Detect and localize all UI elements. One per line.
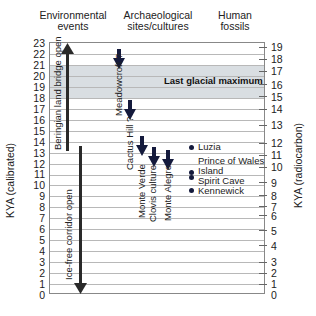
beringian-bar: [66, 52, 69, 151]
right-tick: 17: [271, 66, 283, 76]
header-archaeological: Archaeological sites/cultures: [108, 10, 208, 32]
right-tick: 9: [271, 178, 277, 188]
right-tick: 5: [271, 226, 277, 236]
right-tick: 13: [271, 120, 283, 130]
right-tick: 11: [271, 150, 282, 160]
right-tick-mark: [259, 195, 267, 196]
right-tick-mark: [259, 230, 267, 231]
gridline: [50, 251, 264, 252]
header-environmental-line2: events: [28, 21, 118, 32]
left-tick: 13: [27, 148, 45, 158]
meadowcroft-label: Meadowcroft ?: [114, 54, 124, 116]
right-tick-mark: [259, 47, 267, 48]
gridline: [50, 120, 264, 121]
left-tick: 2: [27, 268, 45, 278]
left-tick: 4: [27, 246, 45, 256]
left-tick: 7: [27, 213, 45, 223]
right-tick: 18: [271, 54, 283, 64]
monte-verde-arrow-icon: [136, 136, 148, 156]
right-tick: 2: [271, 268, 277, 278]
gridline: [50, 87, 264, 88]
arrow-down-icon: [74, 283, 87, 294]
right-tick: 1: [271, 279, 277, 289]
ice-free-corridor-label: Ice-free corridor open: [64, 189, 74, 280]
right-tick: 15: [271, 92, 283, 102]
kennewick-label: Kennewick: [198, 186, 244, 196]
right-tick-mark: [259, 96, 267, 97]
right-tick-mark: [259, 71, 267, 72]
gridline: [50, 98, 264, 99]
right-tick-mark: [259, 84, 267, 85]
spirit-cave-dot: [189, 175, 194, 180]
right-tick: 8: [271, 191, 277, 201]
left-tick: 11: [27, 169, 45, 179]
left-tick: 19: [27, 82, 45, 92]
left-tick: 20: [27, 71, 45, 81]
gridline: [50, 262, 264, 263]
ice-free-corridor-bar: [79, 146, 82, 284]
left-tick: 8: [27, 202, 45, 212]
left-tick: 16: [27, 115, 45, 125]
left-tick: 1: [27, 279, 45, 289]
left-tick: 17: [27, 104, 45, 114]
right-tick-mark: [259, 143, 267, 144]
right-tick-mark: [259, 125, 267, 126]
header-human-fossils: Human fossils: [205, 10, 265, 32]
header-archaeological-line2: sites/cultures: [108, 21, 208, 32]
right-tick: 6: [271, 211, 277, 221]
left-tick: 5: [27, 235, 45, 245]
clovis-culture-label: Clovis culture: [148, 165, 158, 222]
prince-of-wales-label: Prince of Wales Island: [198, 156, 264, 176]
right-tick: 16: [271, 80, 283, 90]
right-tick: 10: [271, 162, 283, 172]
right-tick: 12: [271, 138, 283, 148]
header-environmental: Environmental events: [28, 10, 118, 32]
right-tick-mark: [259, 262, 267, 263]
left-tick: 6: [27, 224, 45, 234]
left-axis-title: KYA (calibrated): [4, 143, 16, 218]
left-tick: 14: [27, 137, 45, 147]
gridline: [50, 273, 264, 274]
right-axis-title: KYA (radiocarbon): [292, 123, 304, 208]
gridline: [50, 131, 264, 132]
left-tick: 0: [27, 290, 45, 300]
monte-alegre-label: Monte Alegre: [163, 165, 173, 221]
right-tick-mark: [259, 182, 267, 183]
left-tick: 23: [27, 38, 45, 48]
right-tick: 3: [271, 257, 277, 267]
right-tick-mark: [259, 215, 267, 216]
gridline: [50, 65, 264, 66]
gridline: [50, 240, 264, 241]
left-tick: 21: [27, 60, 45, 70]
left-tick: 3: [27, 257, 45, 267]
left-tick: 10: [27, 180, 45, 190]
left-tick: 15: [27, 126, 45, 136]
right-tick: 0: [271, 290, 277, 300]
right-tick-mark: [259, 284, 267, 285]
gridline: [50, 229, 264, 230]
lgm-label: Last glacial maximum: [164, 75, 263, 86]
luzia-dot: [189, 145, 194, 150]
left-tick: 9: [27, 191, 45, 201]
right-tick: 14: [271, 104, 283, 114]
right-tick-mark: [259, 206, 267, 207]
right-tick: 19: [271, 42, 283, 52]
header-human-fossils-line2: fossils: [205, 21, 265, 32]
right-tick-mark: [259, 245, 267, 246]
right-tick-mark: [259, 59, 267, 60]
gridline: [50, 54, 264, 55]
left-tick: 18: [27, 93, 45, 103]
right-tick-mark: [259, 109, 267, 110]
cactus-hill-label: Cactus Hill ?: [125, 117, 135, 170]
beringian-label: Beringian land bridge open: [53, 36, 63, 150]
left-tick: 22: [27, 49, 45, 59]
right-tick-mark: [259, 273, 267, 274]
gridline: [50, 109, 264, 110]
luzia-label: Luzia: [198, 142, 221, 152]
monte-verde-label: Monte Verde: [137, 164, 147, 218]
gridline: [50, 142, 264, 143]
right-tick: 4: [271, 241, 277, 251]
kennewick-dot: [189, 188, 194, 193]
